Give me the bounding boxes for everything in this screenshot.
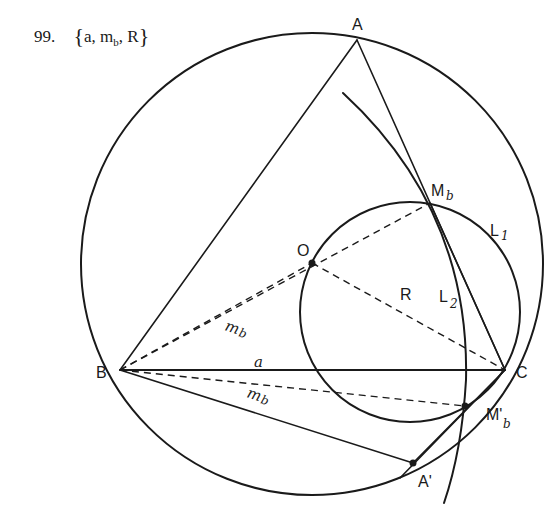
- label-A: A: [352, 16, 363, 33]
- label-L1-sub: 1: [501, 229, 509, 243]
- label-a: a: [254, 353, 263, 371]
- point-Mb-prime: [462, 403, 469, 410]
- label-C: C: [516, 364, 528, 381]
- side-BA-prime: [120, 370, 413, 463]
- median-B-Mb-prime: [120, 370, 465, 406]
- point-A-prime: [410, 460, 417, 467]
- label-A-prime: A': [418, 473, 432, 490]
- label-Mb-prime-sub: b: [503, 417, 511, 431]
- radius-O-C: [312, 263, 505, 370]
- label-Mb-prime: M': [486, 406, 502, 423]
- label-R: R: [400, 286, 412, 303]
- geometry-figure: A B C O R a M b M' b A' L 1 L 2 m b m b: [0, 0, 550, 511]
- label-L2-sub: 2: [449, 297, 458, 311]
- label-L2: L: [439, 288, 448, 305]
- label-Mb: M: [431, 182, 444, 199]
- median-B-O: [120, 263, 312, 370]
- label-B: B: [96, 364, 107, 381]
- label-Mb-sub: b: [446, 189, 454, 203]
- median-B-Mb: [120, 203, 430, 370]
- point-O: [309, 260, 316, 267]
- label-L1: L: [490, 222, 499, 239]
- label-O: O: [297, 242, 309, 259]
